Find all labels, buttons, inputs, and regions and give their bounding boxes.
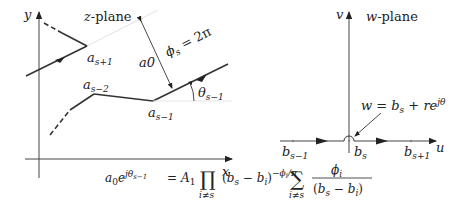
edge-to-as-plus1-top <box>62 33 87 46</box>
point-b-s-plus1 <box>410 140 412 142</box>
edge-from-as-plus1-bottom <box>26 46 87 76</box>
product-subscript: i≠s <box>199 190 214 200</box>
direction-arrow-upper <box>55 57 65 63</box>
direction-arrow-lower <box>196 74 207 82</box>
diagram-canvas: y x z-plane as+1 as−2 as−1 a0 ϕs = 2π θs… <box>0 0 465 205</box>
angle-arc <box>190 83 194 101</box>
phi-label: ϕs = 2π <box>163 24 215 62</box>
equation-lhs: a0ejθs−1 <box>105 169 147 187</box>
fraction-denominator: (bs − bi) <box>313 182 363 198</box>
dashed-edge-lower <box>50 110 70 135</box>
equation-product-term: (bs − bi)−ϕi/π <box>222 168 298 187</box>
edge-as-minus2-to-as-minus1 <box>94 94 153 101</box>
dashed-edge-upper <box>44 23 62 33</box>
direction-arrow-u-right <box>376 138 388 145</box>
direction-arrow-u-left <box>316 138 328 145</box>
sum-subscript: i≠s <box>289 190 304 200</box>
v-axis-label: v <box>336 7 344 22</box>
vertex-label-as-minus2: as−2 <box>83 77 109 94</box>
z-plane-title: z-plane <box>83 9 132 24</box>
edge-to-as-minus2 <box>70 94 94 110</box>
schwarz-christoffel-equation: a0ejθs−1 = A1 ∏ i≠s (bs − bi)−ϕi/π ∑ i≠s… <box>105 163 372 200</box>
point-label-b-s-minus1: bs−1 <box>282 144 308 161</box>
y-axis-label: y <box>23 7 32 22</box>
equation-A1: A1 <box>180 171 195 187</box>
w-plane: v w-plane u bs−1 bs bs+1 w = bs + rejθ <box>280 7 446 161</box>
u-axis-label: u <box>436 140 444 155</box>
angle-label-theta: θs−1 <box>198 85 224 102</box>
sum-symbol: ∑ <box>290 167 305 191</box>
distance-label-a0: a0 <box>139 55 155 70</box>
product-symbol: ∏ <box>200 167 216 191</box>
indent-pointer-arrow <box>355 113 381 136</box>
point-b-s-minus1 <box>292 140 294 142</box>
equation-equals: = <box>167 171 177 185</box>
point-label-b-s: bs <box>354 144 367 161</box>
point-b-s <box>348 140 350 142</box>
indent-label: w = bs + rejθ <box>361 97 446 115</box>
fraction-numerator: ϕi <box>331 163 342 179</box>
vertex-label-as-minus1: as−1 <box>148 105 174 122</box>
vertex-label-as-plus1: as+1 <box>87 50 113 67</box>
point-label-b-s-plus1: bs+1 <box>404 144 430 161</box>
w-plane-title: w-plane <box>366 9 418 24</box>
z-plane: y x z-plane as+1 as−2 as−1 a0 ϕs = 2π θs… <box>23 7 232 179</box>
